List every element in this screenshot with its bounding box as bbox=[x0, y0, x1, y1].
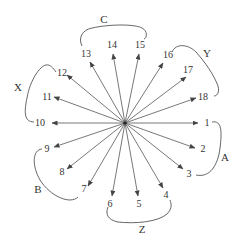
arrow-8 bbox=[67, 123, 125, 169]
node-label-4: 4 bbox=[164, 189, 169, 200]
group-label-y: Y bbox=[203, 47, 211, 59]
group-label-b: B bbox=[34, 183, 41, 195]
node-label-14: 14 bbox=[107, 39, 117, 50]
node-label-12: 12 bbox=[57, 67, 67, 78]
arrow-9 bbox=[54, 123, 125, 147]
arrow-rays bbox=[52, 54, 198, 196]
node-label-17: 17 bbox=[183, 64, 193, 75]
node-label-15: 15 bbox=[135, 39, 145, 50]
node-label-3: 3 bbox=[187, 168, 192, 179]
group-label-z: Z bbox=[139, 223, 146, 235]
node-label-5: 5 bbox=[137, 198, 142, 209]
group-label-c: C bbox=[100, 13, 107, 25]
radial-diagram: 123456789101112131415161718 ABCXYZ bbox=[0, 0, 250, 249]
group-label-a: A bbox=[221, 151, 229, 163]
node-label-16: 16 bbox=[163, 49, 173, 60]
node-label-18: 18 bbox=[198, 91, 208, 102]
node-label-7: 7 bbox=[82, 183, 87, 194]
arrow-2 bbox=[125, 123, 195, 148]
node-label-8: 8 bbox=[60, 166, 65, 177]
arrow-18 bbox=[125, 98, 196, 123]
node-label-1: 1 bbox=[205, 117, 210, 128]
node-label-6: 6 bbox=[108, 198, 113, 209]
node-label-11: 11 bbox=[42, 91, 52, 102]
arrow-12 bbox=[67, 75, 125, 123]
arrow-3 bbox=[125, 123, 183, 169]
node-label-9: 9 bbox=[45, 143, 50, 154]
bracket-y bbox=[172, 46, 219, 96]
arrow-17 bbox=[125, 77, 186, 123]
center-hub bbox=[123, 121, 126, 124]
node-label-2: 2 bbox=[201, 143, 206, 154]
node-label-13: 13 bbox=[81, 48, 91, 59]
node-label-10: 10 bbox=[35, 117, 45, 128]
group-label-x: X bbox=[14, 81, 22, 93]
arrow-11 bbox=[54, 97, 125, 123]
